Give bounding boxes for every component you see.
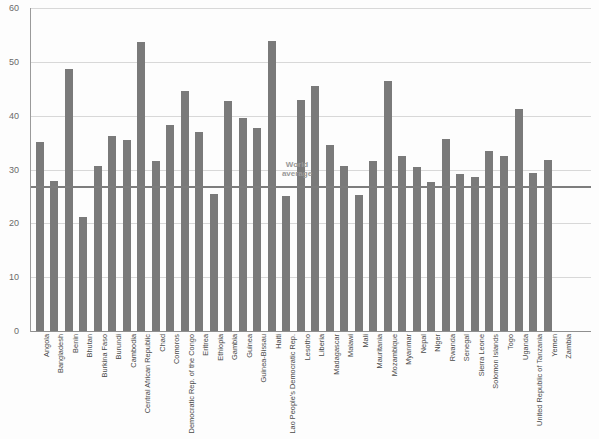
x-tick-label: Solomon Islands xyxy=(492,334,500,389)
bar xyxy=(456,174,464,331)
bar xyxy=(398,156,406,331)
x-tick-label: Lesotho xyxy=(304,334,312,360)
bar xyxy=(326,145,334,331)
bar xyxy=(282,196,290,331)
bar xyxy=(384,81,392,331)
x-tick-label: Ethiopia xyxy=(217,334,225,361)
x-tick-label: Democratic Rep. of the Congo xyxy=(188,334,196,433)
x-tick-label: Central African Republic xyxy=(144,334,152,413)
x-tick-label: Rwanda xyxy=(449,334,457,361)
y-tick-label-20: 20 xyxy=(0,219,19,228)
x-tick-label: Haiti xyxy=(275,334,283,349)
world-average-line xyxy=(31,186,591,188)
y-tick-label-40: 40 xyxy=(0,112,19,121)
y-tick-label-0: 0 xyxy=(0,327,19,336)
x-tick-label: Malawi xyxy=(347,334,355,357)
x-tick-label: Zambia xyxy=(565,334,573,359)
bar xyxy=(340,166,348,331)
bar xyxy=(413,167,421,331)
x-tick-label: Liberia xyxy=(318,334,326,356)
bar xyxy=(166,125,174,331)
bar-chart: 0102030405060 World average AngolaBangla… xyxy=(0,0,599,439)
bar xyxy=(311,86,319,331)
x-tick-label: Mozambique xyxy=(391,334,399,376)
y-tick-label-10: 10 xyxy=(0,273,19,282)
bar xyxy=(500,156,508,331)
x-tick-label: Madagascar xyxy=(333,334,341,375)
x-tick-label: Eritrea xyxy=(202,334,210,356)
x-tick-label: Burundi xyxy=(115,334,123,359)
bar xyxy=(427,182,435,331)
x-tick-label: Bhutan xyxy=(86,334,94,357)
bar xyxy=(123,140,131,331)
x-tick-label: Nepal xyxy=(420,334,428,353)
x-tick-label: Mauritania xyxy=(376,334,384,369)
bar xyxy=(253,128,261,331)
x-tick-label: Lao People's Democratic Rep. xyxy=(289,334,297,434)
gridline-0 xyxy=(31,331,591,332)
x-tick-label: Mali xyxy=(362,334,370,348)
bar xyxy=(515,109,523,331)
x-tick-label: Togo xyxy=(507,334,515,350)
x-tick-label: United Republic of Tanzania xyxy=(536,334,544,426)
bar xyxy=(485,151,493,331)
x-tick-label: Uganda xyxy=(522,334,530,360)
bar xyxy=(210,194,218,331)
x-tick-label: Guinea xyxy=(246,334,254,358)
x-tick-label: Niger xyxy=(434,334,442,352)
bar xyxy=(442,139,450,331)
bar xyxy=(297,100,305,331)
x-tick-label: Chad xyxy=(159,334,167,352)
plot-area: 0102030405060 World average xyxy=(31,8,591,331)
y-tick-label-30: 30 xyxy=(0,166,19,175)
x-tick-label: Guinea-Bissau xyxy=(260,334,268,382)
world-average-label: World average xyxy=(274,160,320,178)
y-tick-label-50: 50 xyxy=(0,58,19,67)
x-tick-label: Sierra Leone xyxy=(478,334,486,376)
x-tick-label: Senegal xyxy=(463,334,471,361)
bar xyxy=(471,177,479,331)
bar xyxy=(181,91,189,331)
bar xyxy=(94,166,102,331)
bar xyxy=(36,142,44,331)
x-tick-label: Bangladesh xyxy=(57,334,65,373)
bar xyxy=(195,132,203,331)
x-tick-label: Burkina Faso xyxy=(101,334,109,378)
x-tick-label: Yemen xyxy=(551,334,559,357)
x-tick-label: Comoros xyxy=(173,334,181,364)
bar xyxy=(224,101,232,331)
bar xyxy=(50,181,58,331)
y-tick-label-60: 60 xyxy=(0,4,19,13)
x-tick-label: Myanmar xyxy=(405,334,413,365)
bar xyxy=(108,136,116,331)
bar xyxy=(529,173,537,331)
x-tick-label: Cambodia xyxy=(130,334,138,368)
x-tick-label: Benin xyxy=(72,334,80,353)
bar xyxy=(65,69,73,331)
bar xyxy=(79,217,87,331)
x-axis-labels-group: AngolaBangladeshBeninBhutanBurkina FasoB… xyxy=(31,334,591,439)
bar xyxy=(355,195,363,331)
bar xyxy=(239,118,247,331)
x-tick-label: Angola xyxy=(43,334,51,357)
x-tick-label: Gambia xyxy=(231,334,239,360)
